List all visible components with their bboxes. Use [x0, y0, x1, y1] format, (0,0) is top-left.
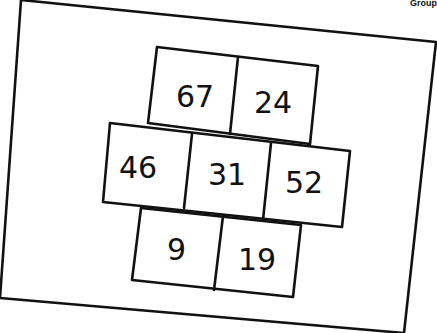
cell-divider [230, 57, 238, 134]
cell-value: 24 [254, 85, 292, 120]
cell-divider [263, 143, 271, 220]
cell-value: 67 [176, 79, 214, 114]
grid-row-bottom: 9 19 [132, 208, 301, 297]
cell-value: 9 [167, 232, 186, 267]
cell-value: 31 [208, 157, 246, 192]
worksheet-drawing: Group 67 24 46 31 52 9 19 [0, 0, 437, 333]
cell-divider [214, 216, 223, 290]
cell-value: 19 [238, 242, 276, 277]
cell-value: 52 [285, 165, 323, 200]
cell-value: 46 [119, 150, 157, 185]
cell-divider [184, 134, 192, 208]
corner-label: Group [410, 0, 437, 8]
